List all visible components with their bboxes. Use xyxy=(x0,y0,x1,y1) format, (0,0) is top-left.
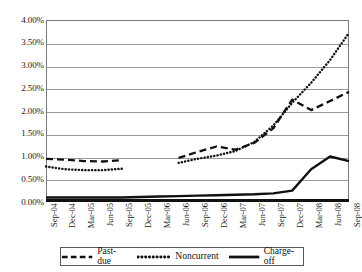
y-axis: 0.00%0.50%1.00%1.50%2.00%2.50%3.00%3.50%… xyxy=(0,0,44,272)
x-axis-tick-label: Sep-05 xyxy=(125,203,134,245)
x-axis-tick-label: Jun-05 xyxy=(106,203,115,245)
y-axis-tick-label: 1.00% xyxy=(2,152,44,161)
series-line-noncurrent xyxy=(46,167,122,171)
legend-label: Charge-off xyxy=(264,247,303,266)
y-axis-tick-label: 4.00% xyxy=(2,16,44,25)
x-axis-tick-label: Jun-06 xyxy=(182,203,191,245)
y-axis-tick-label: 2.00% xyxy=(2,107,44,116)
x-axis-tick-label: Dec-04 xyxy=(68,203,77,245)
x-axis-tick-label: Dec-05 xyxy=(144,203,153,245)
chart-container: 0.00%0.50%1.00%1.50%2.00%2.50%3.00%3.50%… xyxy=(0,0,362,272)
y-axis-tick-label: 3.50% xyxy=(2,38,44,47)
legend-label: Past-due xyxy=(97,247,128,266)
x-axis-tick-label: Jun-07 xyxy=(258,203,267,245)
series-line-charge-off xyxy=(46,157,349,198)
solid-line-swatch xyxy=(228,253,260,261)
x-axis-tick-label: Sep-08 xyxy=(353,203,362,245)
x-axis-line xyxy=(46,199,349,202)
legend-entry[interactable]: Past-due xyxy=(61,247,128,266)
y-axis-tick-label: 2.50% xyxy=(2,84,44,93)
dotted-line-swatch xyxy=(137,253,171,261)
x-axis-tick-label: Jun-08 xyxy=(334,203,343,245)
y-axis-tick-label: 3.00% xyxy=(2,61,44,70)
legend-label: Noncurrent xyxy=(175,252,218,262)
series-line-noncurrent xyxy=(179,33,349,163)
dashed-line-swatch xyxy=(61,253,93,261)
y-axis-tick-label: 1.50% xyxy=(2,129,44,138)
x-axis-tick-label: Mar-06 xyxy=(163,203,172,245)
x-axis-tick-label: Sep-06 xyxy=(201,203,210,245)
y-axis-tick-label: 0.00% xyxy=(2,198,44,207)
x-axis-tick-label: Dec-07 xyxy=(296,203,305,245)
series-line-past-due xyxy=(46,159,122,162)
x-axis-tick-label: Mar-05 xyxy=(87,203,96,245)
legend-entry[interactable]: Noncurrent xyxy=(137,252,218,262)
legend-entry[interactable]: Charge-off xyxy=(228,247,303,266)
chart-legend: Past-dueNoncurrentCharge-off xyxy=(60,247,304,266)
x-axis-tick-label: Sep-07 xyxy=(277,203,286,245)
x-axis-tick-label: Sep-04 xyxy=(50,203,59,245)
series-layer xyxy=(46,20,349,202)
x-axis-tick-label: Mar-08 xyxy=(315,203,324,245)
x-axis-tick-label: Dec-06 xyxy=(220,203,229,245)
x-axis: Sep-04Dec-04Mar-05Jun-05Sep-05Dec-05Mar-… xyxy=(46,203,349,245)
x-axis-tick-label: Mar-07 xyxy=(239,203,248,245)
series-line-past-due xyxy=(179,92,349,158)
y-axis-tick-label: 0.50% xyxy=(2,175,44,184)
